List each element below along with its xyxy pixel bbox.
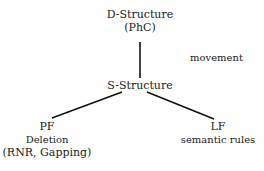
dstructure-title: D-Structure [100,8,180,21]
lf-line2: semantic rules [178,133,258,146]
node-lf: LF semantic rules [178,120,258,146]
movement-label: movement [190,51,243,64]
node-sstructure: S-Structure [100,79,180,92]
node-dstructure: D-Structure (PhC) [100,8,180,34]
edge-sstructure-lf [147,92,214,119]
edge-sstructure-pf [52,92,122,118]
dstructure-subtitle: (PhC) [100,21,180,34]
lf-title: LF [178,120,258,133]
node-pf: PF Deletion (RNR, Gapping) [2,120,92,159]
pf-title: PF [2,120,92,133]
pf-line2: Deletion [2,133,92,146]
pf-line3: (RNR, Gapping) [2,146,92,159]
